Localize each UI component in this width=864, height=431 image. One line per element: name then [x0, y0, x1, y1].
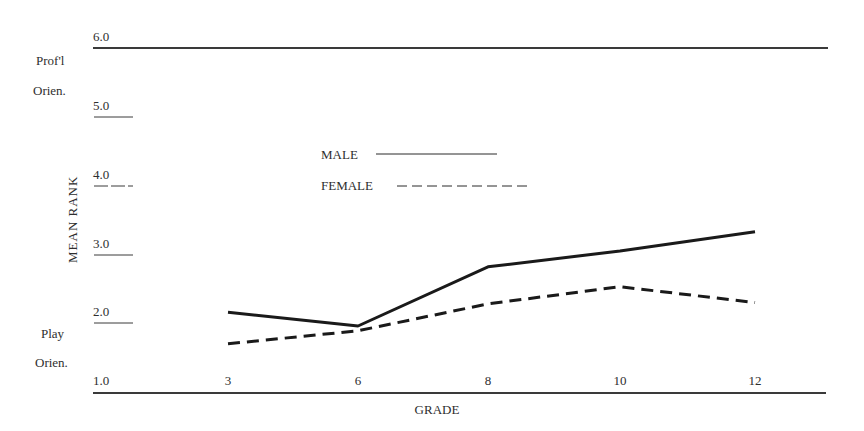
legend-label-male: MALE	[321, 147, 358, 162]
y-annotations: Prof'l Orien. Play Orien.	[33, 53, 68, 370]
x-tick-label: 3	[225, 373, 232, 388]
x-tick-label: 10	[614, 373, 627, 388]
x-axis-ticks: 3 6 8 10 12	[225, 373, 762, 388]
y-tick-label: 6.0	[93, 29, 109, 44]
series-line-male	[228, 232, 755, 326]
x-axis-label: GRADE	[415, 402, 460, 417]
y-axis-label: MEAN RANK	[65, 176, 80, 263]
y-tick-label: 5.0	[93, 98, 109, 113]
y-tick-label: 4.0	[93, 167, 109, 182]
x-tick-label: 8	[485, 373, 492, 388]
y-tick-label: 1.0	[93, 373, 109, 388]
y-axis-ticks: 6.0 5.0 4.0 3.0 2.0 1.0	[93, 29, 133, 388]
legend: MALE FEMALE	[321, 147, 530, 193]
x-tick-label: 6	[355, 373, 362, 388]
x-tick-label: 12	[749, 373, 762, 388]
series-line-female	[228, 287, 755, 344]
annotation-orien-top: Orien.	[33, 83, 66, 98]
mean-rank-line-chart: 6.0 5.0 4.0 3.0 2.0 1.0 Prof'l Orien. Pl…	[0, 0, 864, 431]
annotation-orien-bottom: Orien.	[35, 355, 68, 370]
y-tick-label: 3.0	[93, 236, 109, 251]
annotation-play: Play	[41, 326, 65, 341]
y-tick-label: 2.0	[93, 304, 109, 319]
legend-label-female: FEMALE	[321, 178, 373, 193]
annotation-profl: Prof'l	[36, 53, 65, 68]
